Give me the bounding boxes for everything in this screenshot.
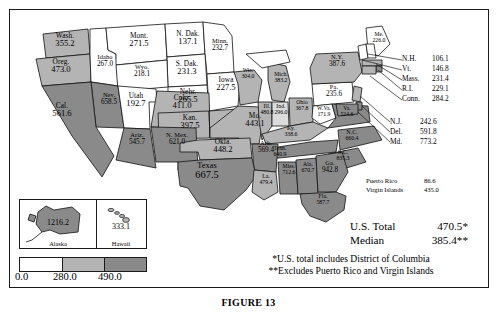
state-shape-florida — [300, 192, 346, 222]
state-shape-oregon — [36, 54, 91, 86]
state-shape-washington — [43, 29, 90, 58]
state-shape-georgia — [316, 152, 348, 192]
territory-list: Puerto Rico86.6 Virgin Islands435.0 — [366, 176, 439, 195]
inset-name-alaska: Alaska — [20, 240, 96, 247]
scale-swatch-high — [105, 258, 146, 271]
scale-swatch-mid — [63, 258, 105, 271]
state-shape-pennsylvania — [312, 82, 354, 106]
scale-tick-280: 280.0 — [53, 271, 77, 282]
footnote-us-total: *U.S. total includes District of Columbi… — [218, 253, 484, 265]
totals-block: U.S. Total470.5* Median385.4** — [350, 220, 468, 247]
state-shape-michigan — [268, 62, 290, 102]
footnote-excludes: **Excludes Puerto Rico and Virgin Island… — [218, 265, 484, 277]
figure-caption: FIGURE 13 — [0, 297, 497, 313]
state-shape-new-york — [310, 52, 362, 84]
inset-value-alaska: 1216.2 — [20, 218, 96, 227]
inset-value-hawaii: 333.1 — [97, 222, 145, 231]
scale-tick-490: 490.0 — [98, 271, 122, 282]
map-frame: Wash.355.2 Oreg.473.0 Idaho267.0 Mont.27… — [9, 9, 489, 288]
state-shape-mississippi — [278, 162, 298, 194]
state-shape-arkansas — [252, 144, 278, 172]
callout-connecticut: Conn.284.2 — [402, 95, 449, 102]
callout-massachusetts: Mass.231.4 — [402, 75, 449, 82]
color-scale-bar — [19, 257, 147, 272]
callout-rhode-island: R.I.229.1 — [402, 85, 449, 92]
callout-vermont: Vt.146.8 — [402, 65, 449, 72]
footnotes-block: *U.S. total includes District of Columbi… — [218, 253, 484, 276]
state-shape-new-hampshire — [366, 44, 376, 58]
state-shape-arizona — [116, 128, 156, 168]
figure-caption-label: FIGURE 13 — [221, 297, 275, 308]
territory-puerto-rico: Puerto Rico86.6 — [366, 176, 439, 185]
callout-new-hampshire: N.H.106.1 — [402, 55, 449, 62]
callout-maryland: Md.773.2 — [390, 138, 437, 145]
total-us: U.S. Total470.5* — [350, 220, 468, 234]
state-shape-south-dakota — [167, 54, 207, 87]
state-shape-texas — [178, 158, 256, 210]
state-shape-alabama — [296, 158, 318, 194]
scale-tick-0: 0.0 — [15, 271, 28, 282]
inset-name-hawaii: Hawaii — [97, 240, 145, 247]
figure-map: Wash.355.2 Oreg.473.0 Idaho267.0 Mont.27… — [0, 0, 497, 313]
state-shape-ohio — [289, 98, 313, 126]
state-shape-connecticut — [362, 66, 376, 74]
callout-new-jersey: N.J.242.6 — [390, 118, 437, 125]
state-shape-indiana — [272, 102, 289, 126]
state-shape-north-dakota — [165, 22, 205, 57]
scale-swatch-low — [20, 258, 63, 271]
callout-delaware: Del.591.8 — [390, 128, 437, 135]
inset-panel: 1216.2 Alaska 333.1 Hawaii — [19, 199, 147, 249]
state-shape-north-carolina — [338, 126, 382, 150]
state-shape-minnesota — [203, 22, 234, 74]
total-median: Median385.4** — [350, 234, 468, 248]
state-shape-maryland — [336, 104, 358, 116]
state-shape-utah — [118, 86, 157, 129]
state-shape-new-jersey — [352, 86, 362, 102]
state-shape-west-virginia — [312, 104, 336, 124]
state-shape-iowa — [207, 72, 240, 111]
state-shape-louisiana — [252, 170, 278, 200]
inset-alaska: 1216.2 Alaska — [20, 200, 97, 248]
inset-hawaii: 333.1 Hawaii — [97, 200, 145, 248]
territory-virgin-islands: Virgin Islands435.0 — [366, 185, 439, 194]
